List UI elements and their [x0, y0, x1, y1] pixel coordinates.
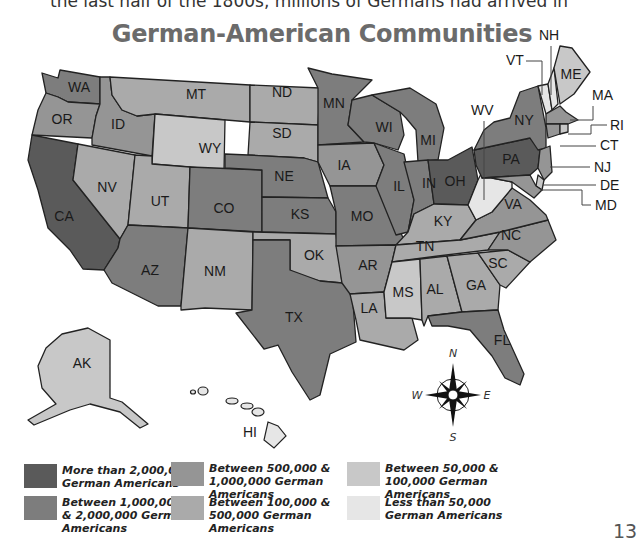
label-nj: NJ: [594, 159, 611, 175]
legend-swatch: [347, 462, 380, 486]
label-mo: MO: [351, 208, 374, 224]
page-number: 13: [613, 520, 637, 542]
label-wy: WY: [199, 140, 222, 156]
label-or: OR: [52, 111, 73, 127]
label-va: VA: [504, 196, 522, 212]
label-mi: MI: [420, 132, 436, 148]
state-ct[interactable]: [546, 124, 560, 138]
map-legend: More than 2,000,000 German Americans Bet…: [0, 462, 644, 547]
legend-item-tier2: Between 1,000,000 & 2,000,000 German Ame…: [24, 496, 192, 535]
label-al: AL: [426, 281, 443, 297]
legend-item-tier1: More than 2,000,000 German Americans: [24, 464, 192, 490]
label-ne: NE: [274, 168, 293, 184]
label-mn: MN: [323, 95, 345, 111]
label-in: IN: [422, 175, 436, 191]
label-oh: OH: [445, 173, 466, 189]
label-pa: PA: [502, 151, 520, 167]
label-ri: RI: [610, 117, 624, 133]
compass-e: E: [484, 389, 491, 402]
label-sc: SC: [488, 255, 507, 271]
compass-s: S: [450, 431, 457, 444]
label-de: DE: [600, 177, 619, 193]
legend-swatch: [24, 496, 57, 520]
label-ms: MS: [393, 284, 414, 300]
state-ia[interactable]: [318, 143, 384, 186]
label-ok: OK: [304, 247, 325, 263]
label-co: CO: [214, 200, 235, 216]
label-il: IL: [393, 178, 405, 194]
legend-label: Less than 50,000 German Americans: [385, 496, 505, 522]
label-tn: TN: [416, 238, 435, 254]
label-id: ID: [111, 116, 125, 132]
label-wa: WA: [68, 79, 91, 95]
label-az: AZ: [141, 262, 159, 278]
legend-item-tier6: Less than 50,000 German Americans: [347, 496, 505, 522]
label-fl: FL: [494, 332, 511, 348]
label-vt: VT: [506, 52, 524, 68]
label-ia: IA: [337, 157, 351, 173]
state-ak[interactable]: [28, 328, 148, 428]
label-hi: HI: [243, 424, 257, 440]
compass-rose-icon: N S W E: [412, 347, 491, 444]
label-wv: WV: [471, 102, 494, 118]
label-tx: TX: [285, 309, 304, 325]
state-hi[interactable]: [191, 387, 287, 448]
state-ut[interactable]: [128, 155, 190, 228]
label-sd: SD: [272, 125, 291, 141]
us-map: WA OR CA ID NV MT WY UT AZ CO NM ND SD N…: [0, 0, 644, 460]
label-ga: GA: [466, 277, 487, 293]
legend-swatch: [347, 496, 380, 520]
label-ca: CA: [54, 208, 74, 224]
label-mt: MT: [186, 86, 207, 102]
label-nd: ND: [272, 84, 292, 100]
legend-swatch: [171, 462, 204, 486]
label-ks: KS: [291, 206, 310, 222]
label-nv: NV: [97, 179, 117, 195]
label-ut: UT: [151, 193, 170, 209]
state-ny[interactable]: [474, 86, 546, 150]
label-nh: NH: [539, 27, 559, 43]
compass-n: N: [449, 347, 457, 360]
label-ak: AK: [73, 355, 92, 371]
compass-w: W: [412, 389, 424, 402]
label-ar: AR: [358, 257, 377, 273]
label-nc: NC: [501, 227, 521, 243]
legend-swatch: [24, 464, 57, 488]
state-ri[interactable]: [560, 124, 568, 134]
label-ny: NY: [514, 112, 534, 128]
label-ma: MA: [592, 87, 614, 103]
label-ky: KY: [434, 213, 453, 229]
label-la: LA: [360, 300, 378, 316]
label-md: MD: [595, 197, 617, 213]
legend-label: Between 100,000 & 500,000 German America…: [209, 496, 359, 535]
legend-swatch: [171, 496, 204, 520]
label-nm: NM: [204, 263, 226, 279]
label-me: ME: [561, 66, 582, 82]
legend-item-tier4: Between 100,000 & 500,000 German America…: [171, 496, 359, 535]
state-nj[interactable]: [538, 146, 552, 180]
label-ct: CT: [600, 137, 619, 153]
label-wi: WI: [375, 119, 392, 135]
